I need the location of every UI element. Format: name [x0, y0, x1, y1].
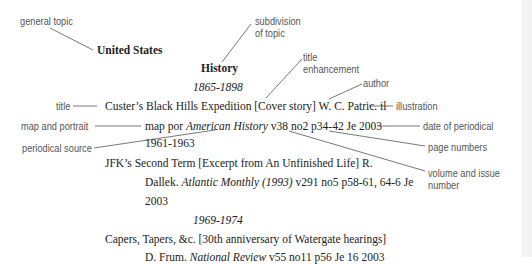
label-title-enhancement-1: title — [303, 51, 317, 63]
citation-source-line: Dallek. Atlantic Monthly (1993) v291 no5… — [145, 176, 413, 189]
periodical-name: National Review — [190, 251, 266, 263]
label-subdivision-2: of topic — [255, 27, 285, 39]
citation-source-line: D. Frum. National Review v55 no11 p56 Je… — [145, 251, 384, 264]
leader-page-numbers — [329, 131, 425, 146]
citation-title: Capers, Tapers, &c. [30th anniversary of… — [105, 233, 386, 246]
periodical-name: American History — [186, 120, 268, 132]
volume-pages-date: v55 no11 p56 Je 16 2003 — [266, 251, 384, 263]
leader-author — [329, 84, 362, 99]
label-volume-issue-1: volume and issue — [428, 167, 500, 179]
period-heading: 1961-1963 — [145, 137, 195, 150]
label-title: title — [56, 100, 70, 112]
citation-year: 2003 — [145, 195, 168, 208]
leader-title-enhancement — [266, 59, 302, 98]
volume-pages-date: v38 no2 p34-42 Je 2003 — [268, 120, 382, 132]
leader-subdivision — [222, 24, 251, 62]
subdivision-heading: History — [201, 62, 238, 75]
label-general-topic: general topic — [20, 15, 73, 27]
subject-heading: United States — [97, 44, 163, 57]
periodical-name: Atlantic Monthly (1993) — [181, 176, 292, 188]
citation-title: Custer’s Black Hills Expedition [Cover s… — [105, 100, 387, 113]
label-title-enhancement-2: enhancement — [303, 63, 359, 75]
label-page-numbers: page numbers — [428, 141, 487, 153]
label-periodical-source: periodical source — [22, 142, 92, 154]
label-map-and-portrait: map and portrait — [21, 120, 88, 132]
citation-source-line: map por American History v38 no2 p34-42 … — [145, 120, 382, 133]
period-heading: 1969-1974 — [193, 214, 243, 227]
leader-general-topic — [50, 28, 93, 50]
label-subdivision-1: subdivision — [255, 15, 301, 27]
volume-pages-date: v291 no5 p58-61, 64-6 Je — [293, 176, 414, 188]
period-heading: 1865-1898 — [193, 81, 243, 94]
label-volume-issue-2: number — [428, 179, 459, 191]
label-date-of-periodical: date of periodical — [423, 120, 493, 132]
label-author: author — [363, 77, 389, 89]
label-illustration: illustration — [396, 100, 438, 112]
citation-title: JFK’s Second Term [Excerpt from An Unfin… — [105, 157, 373, 170]
citation-author: D. Frum. — [145, 251, 190, 263]
citation-author: Dallek. — [145, 176, 181, 188]
citation-illus-note: map por — [145, 120, 186, 132]
